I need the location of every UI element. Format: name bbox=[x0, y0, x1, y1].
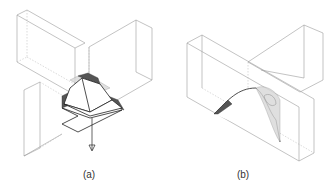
caption-a: (a) bbox=[74, 169, 104, 180]
beam-joint-b-drawing bbox=[168, 0, 336, 188]
beam-joint-a-drawing bbox=[0, 0, 168, 188]
figure-panel-b: (b) bbox=[168, 0, 336, 188]
caption-b: (b) bbox=[228, 169, 258, 180]
figure-panel-a: (a) bbox=[0, 0, 168, 188]
